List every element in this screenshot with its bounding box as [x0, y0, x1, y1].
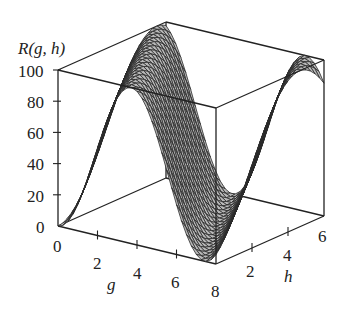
z-axis-label: R(g, h) — [18, 40, 65, 57]
g-tick-label: 6 — [171, 274, 180, 291]
box-edge — [216, 216, 324, 264]
h-tick-label: 6 — [318, 228, 327, 245]
h-tick-label: 4 — [283, 247, 292, 264]
g-tick-label: 8 — [211, 283, 220, 300]
box-edge — [216, 60, 324, 108]
h-tick-label: 2 — [246, 263, 255, 280]
z-tick-label: 20 — [27, 188, 44, 205]
g-tick-label: 4 — [133, 265, 142, 282]
g-tick-label: 0 — [53, 238, 62, 255]
surface-mesh — [58, 25, 324, 261]
z-tick-label: 80 — [27, 94, 44, 111]
z-tick-label: 0 — [36, 219, 45, 236]
h-axis-label: h — [284, 268, 293, 285]
box-edge — [58, 178, 166, 226]
box-edge — [166, 22, 324, 60]
z-tick-label: 60 — [27, 125, 44, 142]
g-axis-label: g — [107, 276, 116, 293]
z-tick-label: 40 — [27, 156, 44, 173]
g-tick-label: 2 — [93, 255, 102, 272]
z-tick-label: 100 — [18, 63, 44, 80]
